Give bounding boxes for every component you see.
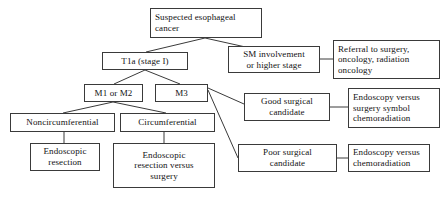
- node-endoscopy-versus-chemoradiation[interactable]: Endoscopy versus chemoradiation: [348, 144, 430, 172]
- node-label: Poor surgical candidate: [242, 147, 333, 168]
- node-label: M3: [159, 88, 204, 99]
- node-label: Good surgical candidate: [248, 96, 326, 117]
- node-endoscopic-resection[interactable]: Endoscopic resection: [30, 143, 100, 171]
- node-label: Endoscopy versus chemoradiation: [353, 147, 427, 168]
- edge-t1a-to-m3: [145, 70, 180, 84]
- node-label: Referral to surgery, oncology, radiation…: [338, 44, 437, 76]
- node-label: Circumferential: [124, 117, 211, 128]
- node-t1a-stage-i[interactable]: T1a (stage I): [102, 52, 188, 70]
- node-suspected-esophageal-cancer[interactable]: Suspected esophageal cancer: [150, 8, 262, 38]
- node-m3[interactable]: M3: [155, 84, 208, 102]
- edge-t1a-to-m1m2: [114, 70, 145, 84]
- edge-m3-to-good-surgical: [208, 88, 244, 104]
- node-sm-involvement-or-higher-stage[interactable]: SM involvement or higher stage: [228, 46, 320, 73]
- node-label: T1a (stage I): [106, 56, 184, 67]
- node-m1-or-m2[interactable]: M1 or M2: [84, 84, 143, 102]
- node-circumferential[interactable]: Circumferential: [120, 113, 215, 132]
- node-label: M1 or M2: [88, 88, 139, 99]
- node-label: Noncircumferential: [14, 117, 111, 128]
- node-label: SM involvement or higher stage: [232, 49, 316, 70]
- edge-m1m2-to-circumferential: [113, 102, 166, 113]
- edge-m1m2-to-noncircumferential: [63, 102, 113, 113]
- node-good-surgical-candidate[interactable]: Good surgical candidate: [244, 93, 330, 121]
- node-endoscopic-resection-versus-surgery[interactable]: Endoscopic resection versus surgery: [113, 143, 215, 188]
- node-label: Endoscopic resection versus surgery: [117, 150, 211, 182]
- flowchart-canvas: Suspected esophageal cancer T1a (stage I…: [0, 0, 444, 199]
- node-referral-to-surgery-oncology-radiation-oncology[interactable]: Referral to surgery, oncology, radiation…: [333, 40, 440, 79]
- node-label: Suspected esophageal cancer: [155, 12, 259, 33]
- edge-suspected-to-t1a: [146, 38, 205, 52]
- node-endoscopy-versus-surgery-chemoradiation[interactable]: Endoscopy versus surgery symbol chemorad…: [348, 88, 440, 128]
- node-label: Endoscopy versus surgery symbol chemorad…: [353, 92, 437, 124]
- node-poor-surgical-candidate[interactable]: Poor surgical candidate: [238, 144, 337, 172]
- node-label: Endoscopic resection: [34, 146, 96, 167]
- node-noncircumferential[interactable]: Noncircumferential: [10, 113, 115, 132]
